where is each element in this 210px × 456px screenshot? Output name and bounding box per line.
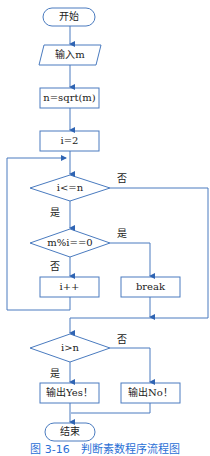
input-label: 输入m	[40, 49, 100, 61]
output-no-label: 输出No！	[121, 387, 180, 399]
loop-no-label: 否	[117, 173, 127, 185]
sqrt-label: n=sqrt(m)	[40, 92, 99, 104]
edge-final-no	[110, 348, 150, 382]
output-yes-label: 输出Yes！	[40, 387, 99, 399]
final-no-label: 否	[117, 334, 127, 346]
start-label: 开始	[43, 11, 95, 23]
end-label: 结束	[45, 426, 95, 438]
edge-no-end	[71, 403, 150, 413]
mod-yes-label: 是	[117, 228, 127, 240]
loop-yes-label: 是	[50, 207, 60, 219]
loop-condition-label: i<=n	[40, 182, 100, 194]
increment-label: i++	[40, 281, 99, 293]
edge-mod-yes	[110, 243, 150, 276]
break-label: break	[121, 281, 180, 293]
edge-loop-no	[70, 188, 208, 318]
figure-caption: 图 3-16 判断素数程序流程图	[0, 440, 210, 456]
mod-no-label: 否	[50, 261, 60, 273]
final-yes-label: 是	[50, 368, 60, 380]
mod-condition-label: m%i==0	[35, 237, 105, 249]
final-condition-label: i>n	[40, 342, 100, 354]
init-label: i=2	[40, 135, 99, 147]
